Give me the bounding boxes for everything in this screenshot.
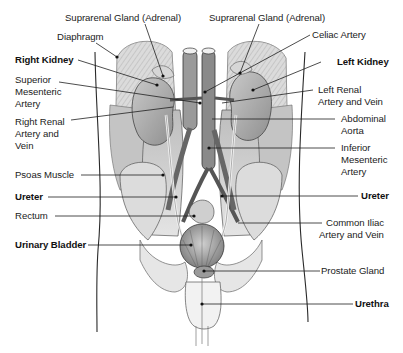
label-suprarenal-gland-right: Suprarenal Gland (Adrenal) [65,12,181,23]
label-left-kidney: Left Kidney [337,56,389,67]
label-line: Aorta [341,125,364,136]
label-line: Artery [341,166,366,177]
label-line: Artery and Vein [318,96,383,107]
penis [185,282,221,329]
urinary-system-diagram: Suprarenal Gland (Adrenal) Suprarenal Gl… [0,0,403,353]
label-ureter-right: Ureter [15,191,43,202]
label-line: Superior [15,74,51,85]
label-line: Vein [15,140,33,151]
label-prostate-gland: Prostate Gland [321,265,384,276]
label-line: Mesenteric [341,154,387,165]
label-line: Inferior [341,142,370,153]
label-rectum: Rectum [15,210,48,221]
label-line: Artery and Vein [319,229,384,240]
label-right-kidney: Right Kidney [15,54,74,65]
label-urinary-bladder: Urinary Bladder [15,239,86,250]
label-line: Artery and [15,128,59,139]
label-line: Right Renal [15,116,65,127]
label-line: Left Renal [318,84,361,95]
label-urethra: Urethra [355,298,389,309]
label-celiac-artery: Celiac Artery [312,29,366,40]
label-psoas-muscle: Psoas Muscle [15,169,74,180]
label-line: Mesenteric [15,86,61,97]
label-line: Artery [15,98,40,109]
label-diaphragm: Diaphragm [57,31,103,42]
label-suprarenal-gland-left: Suprarenal Gland (Adrenal) [209,12,325,23]
label-line: Common Iliac [326,217,384,228]
label-line: Abdominal [341,113,386,124]
rectum [189,200,214,223]
label-ureter-left: Ureter [361,190,389,201]
